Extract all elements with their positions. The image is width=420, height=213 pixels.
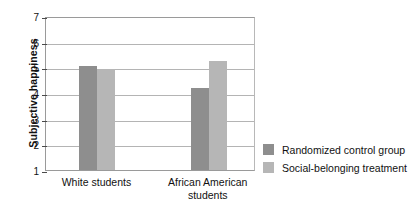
legend-label-treatment: Social-belonging treatment — [282, 162, 407, 174]
y-tick-mark — [42, 172, 47, 173]
bar-treatment — [209, 61, 227, 170]
bar-control — [191, 88, 209, 170]
legend-item-control: Randomized control group — [263, 142, 407, 157]
y-tick-mark — [42, 69, 47, 70]
y-tick-mark — [42, 121, 47, 122]
legend: Randomized control group Social-belongin… — [263, 142, 407, 178]
y-tick-mark — [42, 146, 47, 147]
gridline — [46, 44, 254, 45]
y-tick-label: 7 — [33, 13, 39, 23]
y-tick-label: 4 — [33, 90, 39, 100]
y-tick-mark — [42, 18, 47, 19]
x-axis-label-line: African American — [143, 176, 273, 189]
bar-chart: Subjective happiness 1234567 White stude… — [0, 0, 420, 213]
legend-label-control: Randomized control group — [282, 144, 405, 156]
legend-swatch-treatment-icon — [263, 162, 274, 173]
y-tick-mark — [42, 44, 47, 45]
bar-treatment — [97, 69, 115, 170]
y-tick-label: 2 — [33, 141, 39, 151]
x-axis-label-line: students — [143, 189, 273, 202]
plot-area: 1234567 — [45, 17, 255, 171]
y-tick-label: 5 — [33, 64, 39, 74]
legend-swatch-control-icon — [263, 144, 274, 155]
y-tick-label: 6 — [33, 39, 39, 49]
x-axis-label: African Americanstudents — [143, 176, 273, 201]
bar-control — [79, 66, 97, 170]
y-tick-label: 3 — [33, 116, 39, 126]
legend-item-treatment: Social-belonging treatment — [263, 160, 407, 175]
y-tick-mark — [42, 95, 47, 96]
